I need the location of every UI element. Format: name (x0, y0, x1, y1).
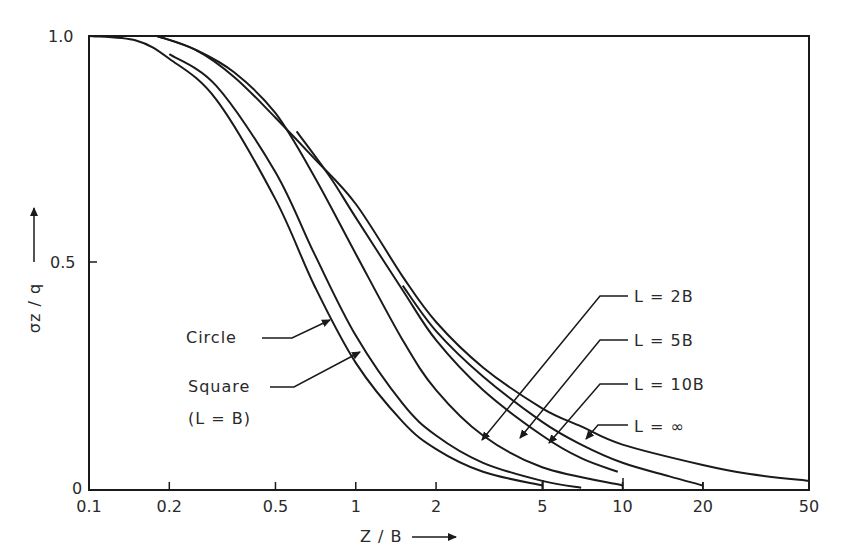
curve-circle (89, 36, 542, 486)
annotation-label-linf: L = ∞ (634, 417, 685, 436)
x-tick-label: 1 (351, 497, 361, 516)
y-tick-label: 0.5 (50, 253, 75, 272)
y-tick-label: 1.0 (48, 27, 73, 46)
annotation-label-l2b: L = 2B (634, 287, 694, 306)
annotation-circle: Circle (186, 320, 330, 347)
y-tick-label: 0 (72, 479, 82, 498)
x-tick-label: 0.5 (263, 497, 288, 516)
chart-canvas: 1.0 0.5 0 0.10.20.5125102050 σz / q Z / … (0, 0, 843, 558)
curve-l (157, 36, 809, 481)
x-tick-label: 10 (612, 497, 632, 516)
y-axis-label: σz / q (25, 283, 44, 333)
x-tick-label: 20 (693, 497, 713, 516)
x-axis-ticks: 0.10.20.5125102050 (76, 482, 819, 516)
annotation-label-circle: Circle (186, 328, 237, 347)
x-axis-label: Z / B (360, 527, 403, 546)
annotation-label-square: Square (188, 377, 250, 396)
x-tick-label: 0.2 (157, 497, 182, 516)
y-axis-label-group: σz / q (25, 283, 44, 333)
x-tick-label: 0.1 (76, 497, 101, 516)
annotation-square: Square (L = B) (188, 352, 360, 428)
annotation-label-square-sub: (L = B) (188, 409, 251, 428)
x-tick-label: 2 (431, 497, 441, 516)
x-tick-label: 5 (537, 497, 547, 516)
annotation-label-l10b: L = 10B (634, 375, 705, 394)
annotation-label-l5b: L = 5B (634, 331, 694, 350)
x-tick-label: 50 (799, 497, 819, 516)
